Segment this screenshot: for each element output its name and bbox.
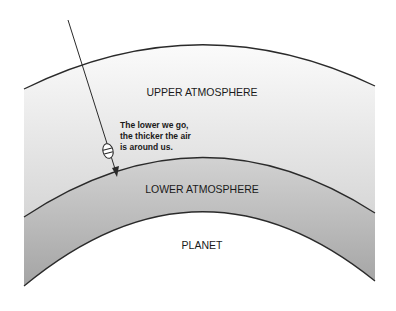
caption-line: is around us.	[120, 142, 173, 152]
planet-label: PLANET	[182, 239, 223, 251]
lower-atmosphere-label: LOWER ATMOSPHERE	[145, 183, 259, 195]
atmosphere-diagram: UPPER ATMOSPHERE LOWER ATMOSPHERE PLANET…	[0, 0, 396, 311]
caption-line: The lower we go,	[120, 120, 188, 130]
caption-line: the thicker the air	[120, 131, 192, 141]
upper-atmosphere-label: UPPER ATMOSPHERE	[146, 86, 257, 98]
